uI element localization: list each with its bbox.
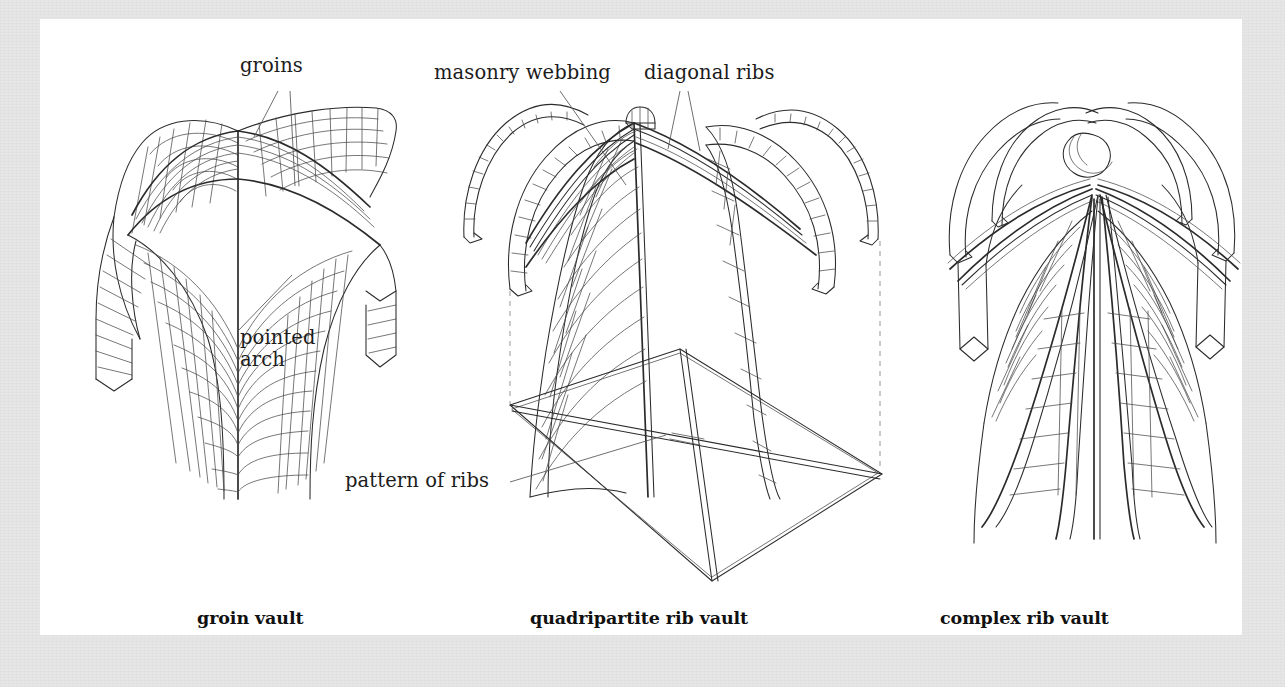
cx-rear-left-arch	[992, 108, 1098, 227]
quad-rear-left-arch	[464, 105, 588, 243]
label-pattern-of-ribs: pattern of ribs	[345, 470, 489, 492]
cx-outer-silhouette	[974, 423, 1216, 543]
caption-complex-rib-vault: complex rib vault	[940, 608, 1109, 628]
quadripartite-rib-vault-drawing	[464, 91, 882, 581]
quad-projection-lines	[510, 241, 880, 471]
cx-apex-ring	[1063, 133, 1112, 177]
groin-web-right-rear	[238, 107, 396, 197]
groin-web-left-rear	[114, 120, 238, 233]
label-diagonal-ribs: diagonal ribs	[644, 62, 775, 84]
cx-left-arch	[949, 103, 1060, 361]
caption-quadripartite-rib-vault: quadripartite rib vault	[530, 608, 748, 628]
vault-diagram-artwork: .s { fill:none; stroke:#2b2b2b; stroke-w…	[40, 19, 1242, 635]
complex-rib-vault-drawing	[948, 103, 1240, 543]
white-plate: .s { fill:none; stroke:#2b2b2b; stroke-w…	[40, 19, 1242, 635]
groin-vault-drawing	[96, 91, 396, 499]
figure-page: .s { fill:none; stroke:#2b2b2b; stroke-w…	[0, 0, 1285, 687]
label-pointed-arch: pointed arch	[240, 327, 316, 371]
cx-lower-webbing	[1010, 307, 1184, 497]
rib-plan-diagram	[510, 349, 882, 581]
cx-rear-right-arch	[1086, 108, 1192, 225]
quad-diagonal-ribs-right	[634, 123, 816, 255]
groin-right-springer	[366, 245, 396, 367]
label-groins: groins	[240, 55, 303, 77]
quad-masonry-webbing	[530, 123, 654, 497]
cx-rib-fan	[948, 179, 1240, 539]
figure-stage: .s { fill:none; stroke:#2b2b2b; stroke-w…	[40, 19, 1242, 635]
caption-groin-vault: groin vault	[197, 608, 303, 628]
cx-right-arch	[1126, 103, 1235, 359]
label-masonry-webbing: masonry webbing	[434, 62, 611, 84]
